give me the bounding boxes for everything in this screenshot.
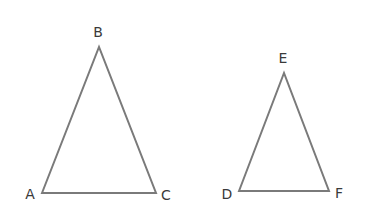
vertex-label-e: E	[279, 50, 288, 66]
vertex-label-f: F	[335, 185, 343, 201]
triangle-abc	[42, 47, 156, 193]
vertex-label-d: D	[222, 186, 233, 202]
vertex-label-b: B	[93, 24, 103, 40]
vertex-label-c: C	[161, 187, 171, 203]
triangle-def	[239, 73, 329, 191]
triangles-diagram: A B C D E F	[0, 0, 365, 223]
vertex-label-a: A	[25, 186, 35, 202]
